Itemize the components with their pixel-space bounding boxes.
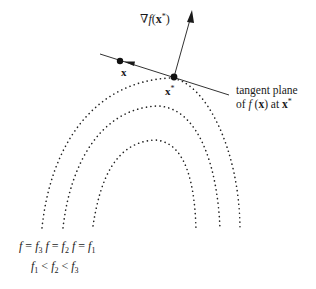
point-x xyxy=(117,58,123,64)
tangent-label-line2: of f (x) at x* xyxy=(236,97,292,111)
gradient-arrow xyxy=(174,16,191,77)
point-xstar-label: x* xyxy=(165,84,175,97)
contour-f2 xyxy=(63,106,220,230)
gradient-label: ∇f(x*) xyxy=(140,12,170,26)
gradient-arrowhead-icon xyxy=(187,10,194,23)
point-xstar xyxy=(171,74,178,81)
contour-f3 xyxy=(42,78,240,230)
contour-f1 xyxy=(93,140,196,230)
ordering-label: f1 < f2 < f3 xyxy=(31,259,79,275)
contour-labels: f = f3 f = f2 f = f1 xyxy=(19,239,95,256)
level-set-diagram: ∇f(x*) x x* tangent plane of f (x) at x*… xyxy=(0,0,316,289)
point-x-label: x xyxy=(121,66,127,78)
tangent-label-line1: tangent plane xyxy=(236,84,298,97)
